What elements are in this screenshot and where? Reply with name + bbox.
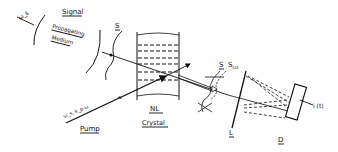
propagating-medium-label: Propagating Medium [49,23,85,48]
signal-label: Signal [62,8,84,16]
wavy-wavefront [105,31,122,80]
pump-frequency-label: ω_s, k_p·ω [62,103,89,120]
wavefront-arc-2 [86,30,100,73]
local-oscillator-label: SLO [228,61,239,70]
detector [286,84,307,120]
wavefront-s2-label: S [219,61,224,69]
nl-label: NL [150,105,159,113]
wavefront-s-label: S [115,22,120,30]
focused-rays [244,76,290,118]
optical-diagram: ω_s Signal Propagating Medium S ω_s, k_p… [0,0,338,152]
crystal-label: Crystal [142,119,165,127]
pump-beam [66,76,166,123]
detector-label: D [278,136,283,144]
output-signal-label: i (t) [313,102,324,109]
lens-label: L [229,129,233,137]
wavefront-arc-1 [34,15,45,45]
output-beam-lower [178,78,212,91]
pump-exit-beam [166,64,190,76]
pump-label: Pump [80,125,100,133]
svg-text:ω_s, k_p·ω: ω_s, k_p·ω [62,103,89,120]
